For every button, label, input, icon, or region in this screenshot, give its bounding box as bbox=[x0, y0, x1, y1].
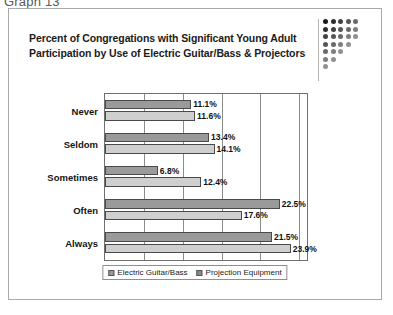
decorative-dot bbox=[346, 19, 351, 24]
bar-value-label: 23.9% bbox=[293, 244, 317, 254]
decorative-dot bbox=[323, 49, 328, 54]
chart-bar: 12.4% bbox=[105, 177, 201, 187]
decorative-dot bbox=[331, 49, 336, 54]
decorative-dot bbox=[338, 42, 343, 47]
decorative-dot bbox=[331, 34, 336, 39]
bar-value-label: 13.4% bbox=[211, 132, 235, 142]
legend-label: Projection Equipment bbox=[206, 268, 282, 277]
bar-value-label: 11.1% bbox=[193, 99, 217, 109]
bar-value-label: 12.4% bbox=[203, 177, 227, 187]
decorative-dot bbox=[353, 34, 358, 39]
decorative-dot bbox=[331, 19, 336, 24]
chart-frame: Percent of Congregations with Significan… bbox=[8, 8, 382, 300]
dot-matrix-decoration-icon bbox=[323, 19, 369, 81]
decorative-dot bbox=[331, 42, 336, 47]
chart-title-line-1: Percent of Congregations with Significan… bbox=[29, 31, 301, 46]
chart-bar: 23.9% bbox=[105, 244, 291, 254]
legend-item: Projection Equipment bbox=[197, 268, 282, 277]
category-axis-label: Sometimes bbox=[47, 171, 98, 182]
decorative-dot bbox=[353, 19, 358, 24]
decorative-dot bbox=[323, 27, 328, 32]
bar-value-label: 21.5% bbox=[274, 232, 298, 242]
decorative-dot bbox=[323, 64, 328, 69]
category-axis-label: Never bbox=[72, 105, 98, 116]
chart-category-row: Always21.5%23.9% bbox=[105, 227, 307, 260]
chart-category-row: Often22.5%17.6% bbox=[105, 194, 307, 227]
chart-bar: 11.6% bbox=[105, 111, 195, 121]
chart-bar: 21.5% bbox=[105, 232, 272, 242]
chart-bar: 17.6% bbox=[105, 211, 242, 221]
bar-value-label: 6.8% bbox=[160, 166, 179, 176]
chart-category-row: Sometimes6.8%12.4% bbox=[105, 160, 307, 193]
legend-swatch-icon bbox=[108, 270, 114, 276]
decorative-dot bbox=[353, 27, 358, 32]
decorative-dot bbox=[331, 27, 336, 32]
chart-bar: 11.1% bbox=[105, 100, 191, 110]
legend-label: Electric Guitar/Bass bbox=[117, 268, 187, 277]
chart-title-line-2: Participation by Use of Electric Guitar/… bbox=[29, 46, 301, 61]
decorative-dot bbox=[346, 42, 351, 47]
chart-legend: Electric Guitar/Bass Projection Equipmen… bbox=[102, 265, 287, 280]
decorative-dot bbox=[346, 27, 351, 32]
bar-value-label: 17.6% bbox=[244, 210, 268, 220]
bar-value-label: 22.5% bbox=[282, 199, 306, 209]
plot-area: Never11.1%11.6%Seldom13.4%14.1%Sometimes… bbox=[104, 93, 308, 261]
category-axis-label: Seldom bbox=[64, 138, 98, 149]
chart-bar: 22.5% bbox=[105, 199, 280, 209]
chart-category-row: Seldom13.4%14.1% bbox=[105, 127, 307, 160]
decorative-dot bbox=[323, 42, 328, 47]
decorative-dot bbox=[323, 57, 328, 62]
chart-bar: 13.4% bbox=[105, 133, 209, 143]
chart-bar: 14.1% bbox=[105, 144, 215, 154]
chart-bar: 6.8% bbox=[105, 166, 158, 176]
decorative-dot bbox=[338, 27, 343, 32]
category-axis-label: Often bbox=[73, 205, 98, 216]
bar-value-label: 14.1% bbox=[217, 144, 241, 154]
chart-title: Percent of Congregations with Significan… bbox=[29, 31, 301, 61]
decorative-dot bbox=[338, 19, 343, 24]
decorative-dot bbox=[323, 34, 328, 39]
decorative-dot bbox=[338, 34, 343, 39]
decorative-dot bbox=[323, 19, 328, 24]
bar-value-label: 11.6% bbox=[197, 111, 221, 121]
chart-category-row: Never11.1%11.6% bbox=[105, 94, 307, 127]
category-axis-label: Always bbox=[65, 238, 98, 249]
legend-item: Electric Guitar/Bass bbox=[108, 268, 187, 277]
legend-swatch-icon bbox=[197, 270, 203, 276]
decorative-dot bbox=[338, 49, 343, 54]
decorative-dot bbox=[331, 57, 336, 62]
decorative-dot bbox=[346, 34, 351, 39]
decoration-divider bbox=[318, 19, 319, 81]
